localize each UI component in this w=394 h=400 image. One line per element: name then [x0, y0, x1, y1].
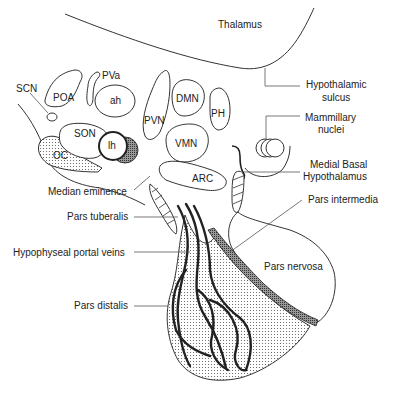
label-lh: lh: [108, 140, 116, 151]
label-mbh-1: Medial Basal: [310, 159, 367, 170]
label-hypothalamic-sulcus-1: Hypothalamic: [306, 79, 367, 90]
label-oc: OC: [53, 150, 68, 161]
median-eminence-leader: [134, 176, 150, 190]
hypothalamic-sulcus-leader: [265, 68, 300, 86]
label-son: SON: [74, 128, 96, 139]
label-pvn: PVN: [144, 115, 165, 126]
label-dmn: DMN: [176, 93, 199, 104]
label-portal-veins: Hypophyseal portal veins: [13, 247, 125, 258]
label-hypothalamic-sulcus-2: sulcus: [322, 92, 350, 103]
pars-tuberalis: [150, 184, 177, 234]
label-pars-tuberalis: Pars tuberalis: [67, 211, 128, 222]
pvn-nucleus: [143, 71, 170, 140]
label-mammillary-1: Mammillary: [305, 112, 356, 123]
label-thalamus: Thalamus: [218, 19, 262, 30]
label-pars-distalis: Pars distalis: [74, 300, 128, 311]
label-pars-intermedia: Pars intermedia: [308, 194, 378, 205]
thalamus-boundary: [65, 8, 314, 69]
hypothalamus-pituitary-diagram: Thalamus Hypothalamic sulcus Mammillary …: [0, 0, 394, 400]
label-arc: ARC: [192, 173, 213, 184]
label-scn: SCN: [16, 83, 37, 94]
label-ah: ah: [110, 95, 121, 106]
label-poa: POA: [53, 92, 74, 103]
label-pars-nervosa: Pars nervosa: [264, 261, 323, 272]
label-vmn: VMN: [175, 138, 197, 149]
mammillary-nucleus-3: [266, 139, 284, 157]
label-pva: PVa: [102, 70, 121, 81]
scn-nucleus: [47, 113, 57, 121]
label-mammillary-2: nuclei: [318, 124, 344, 135]
label-ph: PH: [211, 108, 225, 119]
mammillary-leader: [266, 116, 300, 140]
label-mbh-2: Hypothalamus: [303, 171, 367, 182]
label-median-eminence: Median eminence: [48, 186, 127, 197]
stalk-hatched: [232, 171, 244, 212]
